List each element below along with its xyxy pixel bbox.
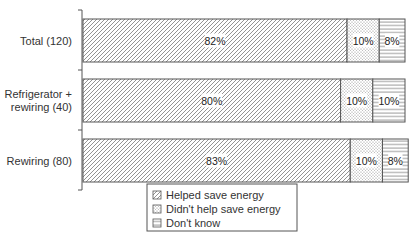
bars-group: 82%10%8%80%10%10%83%10%8% [83, 19, 408, 182]
category-label: Total (120) [20, 35, 72, 47]
category-labels: Total (120)Refrigerator +rewiring (40)Re… [4, 35, 72, 167]
data-label: 80% [201, 95, 222, 107]
data-label: 82% [205, 35, 226, 47]
legend-label: Didn't help save energy [166, 203, 281, 215]
category-label: rewiring (40) [11, 101, 72, 113]
category-label: Refrigerator + [4, 88, 72, 100]
legend-swatch-dots [153, 205, 161, 213]
legend-swatch-diagonal-hatch [153, 191, 161, 199]
data-label: 10% [378, 95, 399, 107]
data-label: 8% [385, 35, 400, 47]
data-label: 10% [356, 155, 377, 167]
data-label: 83% [206, 155, 227, 167]
stacked-bar-chart: 82%10%8%80%10%10%83%10%8% Total (120)Ref… [0, 0, 413, 242]
category-label: Rewiring (80) [7, 155, 72, 167]
legend: Helped save energyDidn't help save energ… [147, 184, 297, 231]
legend-swatch-horizontal-lines [153, 219, 161, 227]
data-label: 10% [353, 35, 374, 47]
legend-label: Helped save energy [166, 189, 264, 201]
data-label: 10% [346, 95, 367, 107]
legend-label: Don't know [166, 217, 220, 229]
y-axis [78, 10, 82, 190]
data-label: 8% [388, 155, 403, 167]
